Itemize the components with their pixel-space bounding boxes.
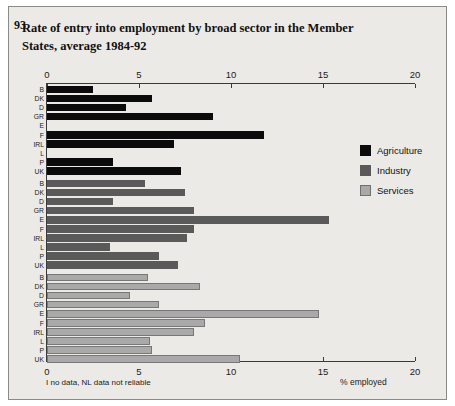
bar-row <box>47 309 415 318</box>
category-label-p: P <box>18 252 44 261</box>
bar-row <box>47 243 415 252</box>
bar-row <box>47 130 415 139</box>
bar-agriculture-gr <box>47 113 213 121</box>
bar-row <box>47 318 415 327</box>
category-label-irl: IRL <box>18 234 44 243</box>
category-label-p: P <box>18 158 44 167</box>
bar-industry-e <box>47 216 329 224</box>
category-label-d: D <box>18 197 44 206</box>
category-label-dk: DK <box>18 282 44 291</box>
figure-page: 93 Rate of entry into employment by broa… <box>0 0 455 406</box>
bar-row <box>47 215 415 224</box>
bar-agriculture-uk <box>47 167 181 175</box>
category-label-f: F <box>18 319 44 328</box>
figure-title: Rate of entry into employment by broad s… <box>22 21 353 53</box>
x-tick-top-20 <box>415 84 416 88</box>
bar-row <box>47 346 415 355</box>
bar-services-p <box>47 346 152 354</box>
bar-row <box>47 206 415 215</box>
bar-row <box>47 94 415 103</box>
bar-row <box>47 121 415 130</box>
bar-row <box>47 273 415 282</box>
bar-agriculture-p <box>47 158 113 166</box>
category-label-dk: DK <box>18 188 44 197</box>
bar-industry-irl <box>47 234 187 242</box>
legend-label-industry: Industry <box>377 165 411 176</box>
bar-agriculture-dk <box>47 95 152 103</box>
bar-row <box>47 224 415 233</box>
category-label-e: E <box>18 121 44 130</box>
x-tick-label-bottom-0: 0 <box>44 366 49 377</box>
chart-legend: AgricultureIndustryServices <box>360 145 422 205</box>
bar-agriculture-irl <box>47 140 174 148</box>
x-tick-label-top-0: 0 <box>44 69 49 80</box>
x-tick-label-top-10: 10 <box>226 69 237 80</box>
bar-industry-uk <box>47 261 178 269</box>
bar-row <box>47 328 415 337</box>
x-axis-label: % employed <box>340 377 387 387</box>
panel-services <box>47 273 415 364</box>
bar-services-f <box>47 319 205 327</box>
category-label-l: L <box>18 243 44 252</box>
page-title: Rate of entry into employment by broad s… <box>22 18 362 54</box>
category-label-b: B <box>18 85 44 94</box>
legend-label-agriculture: Agriculture <box>377 145 422 156</box>
category-label-d: D <box>18 103 44 112</box>
category-label-p: P <box>18 346 44 355</box>
category-label-dk: DK <box>18 94 44 103</box>
category-label-f: F <box>18 225 44 234</box>
x-tick-label-bottom-15: 15 <box>318 366 329 377</box>
x-tick-label-bottom-5: 5 <box>136 366 141 377</box>
category-label-uk: UK <box>18 355 44 364</box>
bar-services-uk <box>47 355 240 363</box>
x-tick-label-bottom-20: 20 <box>410 366 421 377</box>
bar-industry-dk <box>47 189 185 197</box>
bar-row <box>47 300 415 309</box>
category-label-b: B <box>18 179 44 188</box>
category-label-gr: GR <box>18 300 44 309</box>
category-label-f: F <box>18 131 44 140</box>
bar-industry-l <box>47 243 110 251</box>
legend-swatch-industry <box>360 165 371 176</box>
category-label-irl: IRL <box>18 328 44 337</box>
category-label-gr: GR <box>18 206 44 215</box>
bar-industry-p <box>47 252 159 260</box>
legend-swatch-services <box>360 185 371 196</box>
legend-label-services: Services <box>377 185 413 196</box>
bar-services-l <box>47 337 150 345</box>
bar-row <box>47 282 415 291</box>
x-tick-label-top-5: 5 <box>136 69 141 80</box>
bar-row <box>47 252 415 261</box>
bar-industry-d <box>47 198 113 206</box>
bar-services-dk <box>47 283 200 291</box>
footnote: I no data, NL data not reliable <box>46 378 151 387</box>
bar-services-gr <box>47 301 159 309</box>
x-tick-label-top-20: 20 <box>410 69 421 80</box>
bar-industry-f <box>47 225 194 233</box>
category-label-uk: UK <box>18 167 44 176</box>
bar-row <box>47 85 415 94</box>
legend-swatch-agriculture <box>360 145 371 156</box>
bar-row <box>47 355 415 364</box>
bar-services-e <box>47 310 319 318</box>
bar-agriculture-d <box>47 104 126 112</box>
legend-item-agriculture: Agriculture <box>360 145 422 156</box>
category-label-e: E <box>18 215 44 224</box>
category-label-d: D <box>18 291 44 300</box>
category-label-b: B <box>18 273 44 282</box>
bar-row <box>47 234 415 243</box>
category-label-irl: IRL <box>18 140 44 149</box>
bar-row <box>47 291 415 300</box>
bar-agriculture-b <box>47 86 93 94</box>
bar-services-irl <box>47 328 194 336</box>
bar-agriculture-f <box>47 131 264 139</box>
category-label-l: L <box>18 337 44 346</box>
bar-row <box>47 103 415 112</box>
bar-row <box>47 112 415 121</box>
bar-services-d <box>47 292 130 300</box>
x-tick-bottom-20 <box>415 357 416 361</box>
bar-industry-gr <box>47 207 194 215</box>
bar-row <box>47 261 415 270</box>
category-label-l: L <box>18 149 44 158</box>
category-label-gr: GR <box>18 112 44 121</box>
